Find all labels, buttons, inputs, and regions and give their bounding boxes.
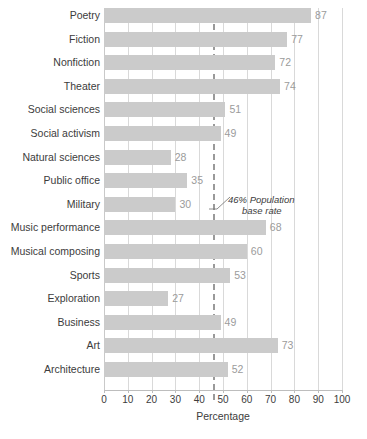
tick-label-100: 100 [327,393,357,406]
bar-value-business: 49 [225,315,237,330]
bar-row: Public office35 [0,173,367,188]
bar-row: Music performance68 [0,220,367,235]
bar-social-activism [104,126,221,141]
bar-natural-sciences [104,150,171,165]
bar-value-art: 73 [282,338,294,353]
bar-value-fiction: 77 [291,32,303,47]
bar-value-poetry: 87 [315,8,327,23]
bar-value-social-activism: 49 [225,126,237,141]
bar-value-public-office: 35 [191,173,203,188]
bar-value-music-performance: 68 [270,220,282,235]
bar-value-social-sciences: 51 [229,102,241,117]
horizontal-bar-chart: Poetry87Fiction77Nonfiction72Theater74So… [0,0,367,439]
category-label-poetry: Poetry [0,8,100,23]
bar-military [104,197,175,212]
bar-row: Exploration27 [0,291,367,306]
category-label-exploration: Exploration [0,291,100,306]
bar-row: Poetry87 [0,8,367,23]
category-label-art: Art [0,338,100,353]
bar-row: Social activism49 [0,126,367,141]
category-label-military: Military [0,197,100,212]
category-label-theater: Theater [0,79,100,94]
bar-exploration [104,291,168,306]
population-base-rate-annotation: 46% Population base rate [228,194,338,216]
category-label-public-office: Public office [0,173,100,188]
bar-fiction [104,32,287,47]
bar-value-nonfiction: 72 [279,55,291,70]
bar-theater [104,79,280,94]
category-label-architecture: Architecture [0,362,100,377]
bar-row: Sports53 [0,268,367,283]
bar-social-sciences [104,102,225,117]
bar-value-musical-composing: 60 [251,244,263,259]
bar-value-exploration: 27 [172,291,184,306]
category-label-social-activism: Social activism [0,126,100,141]
bar-poetry [104,8,311,23]
bar-row: Natural sciences28 [0,150,367,165]
category-label-social-sciences: Social sciences [0,102,100,117]
bar-row: Theater74 [0,79,367,94]
bar-row: Art73 [0,338,367,353]
category-label-business: Business [0,315,100,330]
bar-value-natural-sciences: 28 [175,150,187,165]
category-label-natural-sciences: Natural sciences [0,150,100,165]
bar-row: Social sciences51 [0,102,367,117]
bar-music-performance [104,220,266,235]
annotation-line-1: 46% Population [228,194,338,205]
annotation-line-2: base rate [228,205,338,216]
bar-architecture [104,362,228,377]
bar-row: Architecture52 [0,362,367,377]
bar-value-sports: 53 [234,268,246,283]
category-label-musical-composing: Musical composing [0,244,100,259]
x-axis-title: Percentage [104,410,342,422]
bar-row: Business49 [0,315,367,330]
category-label-fiction: Fiction [0,32,100,47]
bar-row: Musical composing60 [0,244,367,259]
bar-business [104,315,221,330]
bar-value-theater: 74 [284,79,296,94]
bar-row: Nonfiction72 [0,55,367,70]
bar-nonfiction [104,55,275,70]
category-label-sports: Sports [0,268,100,283]
category-label-nonfiction: Nonfiction [0,55,100,70]
bar-musical-composing [104,244,247,259]
bar-row: Fiction77 [0,32,367,47]
bar-value-architecture: 52 [232,362,244,377]
bar-value-military: 30 [179,197,191,212]
bar-art [104,338,278,353]
bar-sports [104,268,230,283]
bar-public-office [104,173,187,188]
category-label-music-performance: Music performance [0,220,100,235]
